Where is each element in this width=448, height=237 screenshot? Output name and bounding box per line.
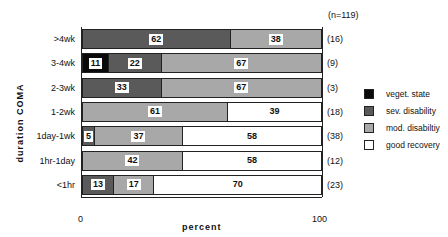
bar-segment: 17	[114, 176, 154, 194]
bar-segment: 11	[83, 54, 109, 72]
bar-row: 3367	[82, 78, 322, 98]
value-label: 61	[148, 106, 162, 117]
y-axis-label: duration COMA	[15, 83, 25, 163]
bar-segment: 67	[162, 54, 321, 72]
total-n-label: (n=119)	[328, 10, 359, 20]
value-label: 70	[231, 179, 245, 190]
value-label: 67	[234, 82, 248, 93]
legend-label: mod. disabiltiy	[386, 123, 440, 133]
bar-row: 53758	[82, 126, 322, 146]
legend-item: sev. disability	[364, 102, 440, 119]
legend-item: mod. disabiltiy	[364, 119, 440, 136]
bar-row: 131770	[82, 175, 322, 195]
value-label: 17	[127, 179, 141, 190]
bar-segment: 58	[183, 152, 321, 170]
bar-row: 4258	[82, 151, 322, 171]
legend-swatch-icon	[364, 140, 374, 150]
value-label: 38	[269, 34, 283, 45]
bar-row: 6238	[82, 29, 322, 49]
value-label: 42	[125, 155, 139, 166]
legend-item: veget. state	[364, 85, 440, 102]
bar-segment: 39	[228, 103, 321, 121]
bar-row: 112267	[82, 53, 322, 73]
value-label: 11	[89, 58, 103, 69]
bar-segment: 37	[95, 127, 183, 145]
value-label: 22	[128, 58, 142, 69]
value-label: 33	[115, 82, 129, 93]
legend-label: veget. state	[386, 89, 430, 99]
value-label: 58	[245, 131, 259, 142]
bar-segment: 42	[83, 152, 183, 170]
legend-swatch-icon	[364, 106, 374, 116]
legend-swatch-icon	[364, 123, 374, 133]
value-label: 67	[234, 58, 248, 69]
count-label: (3)	[327, 83, 338, 93]
bar-segment: 22	[109, 54, 161, 72]
legend-item: good recovery	[364, 136, 440, 153]
value-label: 37	[131, 131, 145, 142]
x-axis	[81, 197, 322, 198]
legend-swatch-icon	[364, 89, 374, 99]
bar-segment: 61	[83, 103, 228, 121]
bar-segment: 58	[183, 127, 321, 145]
bar-segment: 33	[83, 79, 162, 97]
category-label: 2-3wk	[51, 83, 75, 93]
category-label: 1hr-1day	[39, 156, 75, 166]
count-label: (23)	[327, 180, 343, 190]
bar-row: 6139	[82, 102, 322, 122]
value-label: 13	[91, 179, 105, 190]
bar-segment: 62	[83, 30, 231, 48]
value-label: 62	[149, 34, 163, 45]
bar-segment: 5	[83, 127, 95, 145]
category-label: <1hr	[57, 180, 75, 190]
value-label: 5	[84, 131, 93, 142]
x-tick-0: 0	[78, 214, 83, 224]
legend: veget. statesev. disabilitymod. disabilt…	[364, 85, 440, 153]
bar-segment: 70	[154, 176, 321, 194]
category-label: 3-4wk	[51, 58, 75, 68]
count-label: (9)	[327, 58, 338, 68]
bar-segment: 38	[231, 30, 321, 48]
plot-area: 623811226733676139537584258131770	[81, 27, 323, 197]
value-label: 39	[268, 106, 282, 117]
category-label: 1day-1wk	[36, 131, 75, 141]
category-label: >4wk	[54, 34, 75, 44]
value-label: 58	[245, 155, 259, 166]
count-label: (16)	[327, 34, 343, 44]
legend-label: good recovery	[386, 140, 440, 150]
bar-segment: 67	[162, 79, 321, 97]
bar-segment: 13	[83, 176, 114, 194]
count-label: (18)	[327, 107, 343, 117]
x-tick-100: 100	[312, 214, 327, 224]
count-label: (12)	[327, 156, 343, 166]
x-axis-label: percent	[182, 222, 222, 232]
legend-label: sev. disability	[386, 106, 436, 116]
count-label: (38)	[327, 131, 343, 141]
category-label: 1-2wk	[51, 107, 75, 117]
